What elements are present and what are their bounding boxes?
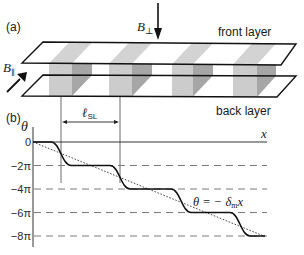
y-tick-label: −8π [11,230,32,242]
y-tick-label: −2π [11,160,32,172]
panel-b-label: (b) [6,111,21,125]
equation-rhs: x [236,195,243,209]
figure: (a) B⊥ front layer B∥ [0,0,304,255]
x-axis-label: x [260,126,267,141]
period-subscript: SL [87,112,97,121]
y-tick-label: −4π [11,183,32,195]
b-perp-symbol: B [137,19,145,34]
slab-front-face [109,64,132,97]
y-tick-label: −6π [11,207,32,219]
slab-front-face [49,64,72,97]
equation-lhs: θ = − δ [193,195,231,209]
y-tick-label: 0 [25,136,31,148]
b-perp-subscript: ⊥ [145,26,153,36]
panel-a-label: (a) [6,20,21,34]
back-layer-label: back layer [216,104,271,118]
b-par-symbol: B [3,60,11,75]
y-axis-label: θ [21,119,28,134]
front-layer-label: front layer [218,25,271,39]
slab-front-face [172,64,193,97]
b-par-subscript: ∥ [11,68,15,77]
slab-front-face [233,65,257,98]
